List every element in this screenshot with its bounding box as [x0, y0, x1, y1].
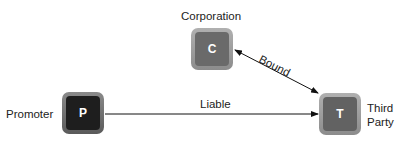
- third-party-letter: T: [323, 97, 357, 131]
- liable-label: Liable: [200, 97, 231, 111]
- promoter-label: Promoter: [6, 107, 53, 121]
- third-party-label-line1: Third: [367, 101, 394, 115]
- corporation-label: Corporation: [181, 9, 241, 23]
- promoter-letter: P: [66, 96, 100, 130]
- third-party-node: T: [319, 93, 361, 135]
- corporation-letter: C: [195, 32, 229, 66]
- corporation-node: C: [191, 28, 233, 70]
- third-party-label: Third Party: [367, 101, 394, 129]
- third-party-label-line2: Party: [367, 115, 394, 129]
- promoter-node: P: [62, 92, 104, 134]
